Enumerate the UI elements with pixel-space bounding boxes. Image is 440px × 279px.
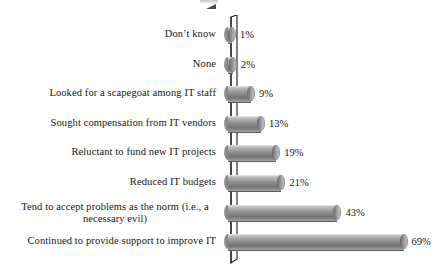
bar — [228, 86, 251, 101]
bar-row: None2% — [0, 57, 440, 85]
category-label: Looked for a scapegoat among IT staff — [0, 87, 216, 100]
category-label: Tend to accept problems as the norm (i.e… — [8, 201, 222, 226]
bar-row: Sought compensation from IT vendors13% — [0, 116, 440, 144]
value-label: 43% — [345, 205, 364, 220]
category-label: Sought compensation from IT vendors — [0, 117, 216, 130]
category-label: None — [0, 58, 216, 71]
bar-chart-plot-area: Don’t know1%None2%Looked for a scapegoat… — [0, 0, 440, 279]
value-label: 1% — [240, 27, 254, 42]
bar-row: Looked for a scapegoat among IT staff9% — [0, 86, 440, 114]
bar-end-cap — [247, 86, 255, 101]
bar-row: Reluctant to fund new IT projects19% — [0, 145, 440, 173]
value-label: 2% — [241, 57, 255, 72]
bar-body — [228, 234, 404, 251]
bar-end-cap — [277, 175, 285, 190]
value-label: 21% — [289, 175, 308, 190]
category-label: Reduced IT budgets — [0, 176, 216, 189]
bar-end-cap — [228, 27, 236, 42]
bar-rows: Don’t know1%None2%Looked for a scapegoat… — [0, 0, 440, 279]
bar-row: Don’t know1% — [0, 27, 440, 55]
value-label: 9% — [259, 86, 273, 101]
chart-root: Don’t know1%None2%Looked for a scapegoat… — [0, 0, 440, 279]
bar-row: Tend to accept problems as the norm (i.e… — [0, 205, 440, 233]
bar-end-cap — [272, 145, 280, 160]
bar — [228, 27, 232, 42]
bar — [228, 234, 404, 249]
bar-end-cap — [229, 57, 237, 72]
bar-body — [228, 175, 281, 192]
bar — [228, 116, 261, 131]
bar — [228, 205, 337, 220]
category-label: Reluctant to fund new IT projects — [0, 146, 216, 159]
category-label-line: Tend to accept problems as the norm (i.e… — [8, 201, 222, 214]
category-label: Don’t know — [0, 28, 216, 41]
category-label: Continued to provide support to improve … — [0, 235, 216, 248]
value-label: 13% — [269, 116, 288, 131]
bar — [228, 175, 281, 190]
bar-end-cap — [333, 205, 341, 220]
bar — [228, 57, 233, 72]
bar-end-cap — [400, 234, 408, 249]
bar-end-cap — [257, 116, 265, 131]
category-label-line: necessary evil) — [8, 213, 222, 226]
value-label: 69% — [412, 234, 431, 249]
value-label: 19% — [284, 145, 303, 160]
bar-body — [228, 145, 276, 162]
bar — [228, 145, 276, 160]
bar-row: Continued to provide support to improve … — [0, 234, 440, 262]
bar-body — [228, 205, 337, 222]
bar-row: Reduced IT budgets21% — [0, 175, 440, 203]
